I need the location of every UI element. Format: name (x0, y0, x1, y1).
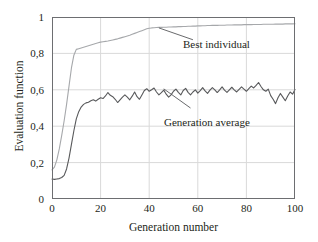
x-tick-label: 100 (287, 203, 304, 214)
x-tick-label: 40 (144, 203, 155, 214)
x-axis-tick-labels: 020406080100 (52, 203, 295, 219)
x-tick-label: 80 (241, 203, 252, 214)
x-tick-label: 60 (192, 203, 203, 214)
y-tick-label: 0,8 (30, 48, 44, 59)
y-axis-title: Evaluation function (13, 15, 25, 197)
annotation-generation-average: Generation average (164, 117, 250, 128)
y-tick-label: 1 (39, 12, 45, 23)
annotation-best-individual: Best individual (183, 39, 250, 50)
y-tick-label: 0,2 (30, 157, 44, 168)
x-tick-label: 20 (95, 203, 106, 214)
chart-figure: 00,20,40,60,81 020406080100 Generation n… (0, 0, 318, 242)
x-tick-label: 0 (49, 203, 55, 214)
y-tick-label: 0,6 (30, 84, 44, 95)
y-tick-label: 0 (39, 194, 45, 205)
plot-area (52, 17, 295, 199)
plot-frame (52, 17, 295, 199)
x-axis-title: Generation number (52, 221, 295, 233)
y-tick-label: 0,4 (30, 121, 44, 132)
